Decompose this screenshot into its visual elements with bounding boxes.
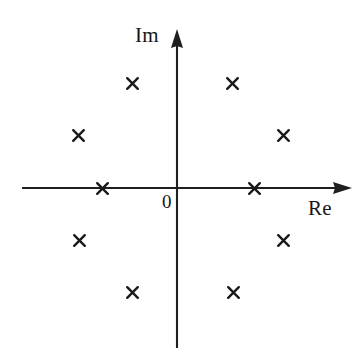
pole-cross-marker: [276, 233, 291, 248]
complex-plane-axes: [0, 0, 359, 356]
pole-cross-marker: [276, 128, 291, 143]
pole-cross-marker: [226, 285, 241, 300]
im-axis-label: Im: [135, 25, 159, 46]
pole-zero-plot-figure: Im Re 0: [0, 0, 359, 356]
pole-cross-marker: [71, 128, 86, 143]
real-axis-group: [22, 182, 352, 194]
pole-cross-marker: [247, 181, 262, 196]
pole-cross-marker: [125, 285, 140, 300]
pole-cross-marker: [72, 233, 87, 248]
pole-cross-marker: [125, 76, 140, 91]
pole-cross-marker: [95, 181, 110, 196]
re-axis-label: Re: [308, 198, 332, 219]
imaginary-axis-arrowhead: [171, 29, 183, 48]
real-axis-arrowhead: [333, 182, 352, 194]
pole-cross-marker: [225, 76, 240, 91]
origin-label: 0: [162, 192, 172, 211]
